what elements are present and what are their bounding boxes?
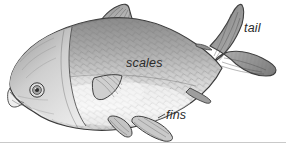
- bottom-divider: [0, 142, 286, 143]
- figure-container: scales tail fins: [0, 0, 286, 143]
- label-scales: scales: [126, 57, 163, 70]
- label-fins: fins: [166, 109, 186, 122]
- label-tail: tail: [244, 22, 261, 35]
- eye: [30, 83, 44, 97]
